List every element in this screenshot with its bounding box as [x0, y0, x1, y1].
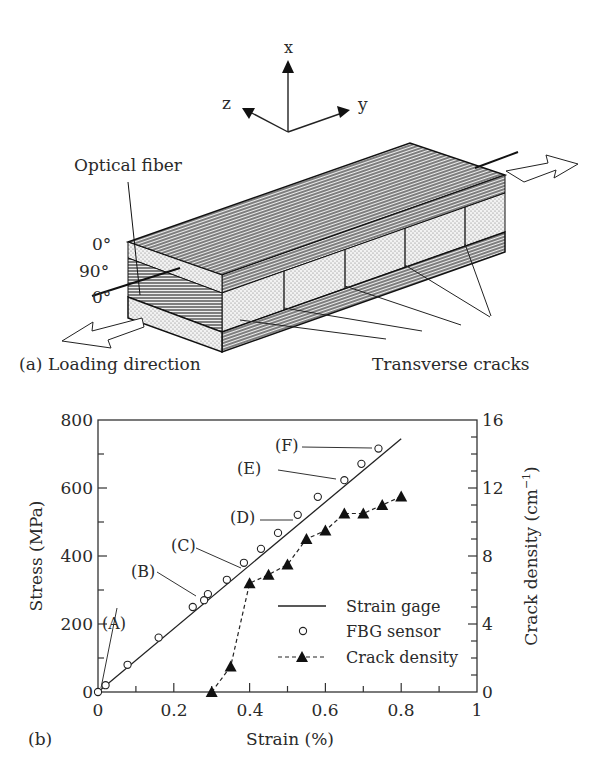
legend: Strain gage FBG sensor Crack density	[278, 597, 458, 667]
crack-density-data-point	[376, 499, 388, 510]
fbg-data-point	[257, 545, 264, 552]
x-tick-label: 0.8	[387, 700, 414, 720]
fbg-data-point	[189, 603, 196, 610]
crack-density-data-point	[263, 569, 275, 580]
y-right-tick-label: 12	[482, 478, 504, 498]
annotation-labels: (A) (B) (C) (D) (E) (F)	[102, 436, 299, 633]
ply-label-bottom: 0°	[92, 287, 111, 307]
y-right-axis-title: Crack density (cm−1)	[520, 466, 541, 646]
annotation-d: (D)	[230, 508, 255, 527]
x-tick-label: 0.6	[311, 700, 338, 720]
y-right-tick-label: 0	[482, 682, 493, 702]
x-axis-ticks	[136, 683, 439, 692]
y-right-tick-label: 8	[482, 546, 493, 566]
annotation-c: (C)	[171, 536, 196, 555]
x-axis-label: x	[284, 38, 293, 57]
panel-b: 0 0.2 0.4 0.6 0.8 1 0 200 400 600 800 0 …	[26, 410, 541, 749]
y-right-tick-labels: 0 4 8 12 16	[482, 410, 504, 702]
fbg-data-point	[341, 477, 348, 484]
crack-density-data-point	[282, 559, 294, 570]
y-left-tick-label: 0	[82, 682, 93, 702]
fbg-data-point	[358, 460, 365, 467]
optical-fiber-exit	[475, 152, 518, 168]
loading-arrow-left-icon	[62, 318, 144, 348]
ply-label-top: 0°	[92, 234, 111, 254]
transverse-cracks-label: Transverse cracks	[372, 354, 530, 374]
x-axis-arrow-icon	[282, 60, 294, 73]
x-axis-title: Strain (%)	[246, 729, 334, 749]
annotation-f: (F)	[275, 436, 299, 455]
x-tick-labels: 0 0.2 0.4 0.6 0.8 1	[93, 700, 483, 720]
fbg-data-point	[223, 576, 230, 583]
figure: x z y	[0, 0, 608, 771]
x-tick-label: 1	[472, 700, 483, 720]
z-axis-label: z	[222, 93, 231, 113]
y-right-tick-label: 4	[482, 614, 493, 634]
crack-density-data-point	[244, 577, 256, 588]
annotation-b: (B)	[131, 562, 155, 581]
y-left-axis-title: Stress (MPa)	[26, 501, 46, 612]
y-left-tick-label: 800	[61, 410, 93, 430]
ply-label-middle: 90°	[79, 261, 109, 281]
crack-density-data-point	[300, 533, 312, 544]
annotation-a: (A)	[102, 614, 126, 633]
y-left-tick-label: 600	[61, 478, 93, 498]
y-left-tick-label: 200	[61, 614, 93, 634]
x-tick-label: 0	[93, 700, 104, 720]
fbg-data-point	[375, 445, 382, 452]
panel-a-label: (a)	[19, 354, 42, 374]
legend-fbg-label: FBG sensor	[346, 622, 441, 641]
fbg-data-point	[314, 493, 321, 500]
legend-crack-density-label: Crack density	[346, 648, 458, 667]
loading-arrow-right-icon	[506, 155, 578, 182]
fbg-data-point	[94, 688, 101, 695]
legend-fbg-marker-icon	[299, 627, 306, 634]
crack-density-data-point	[395, 491, 407, 502]
y-axis-arrow-icon	[337, 106, 350, 118]
fbg-data-point	[124, 661, 131, 668]
optical-fiber-label: Optical fiber	[74, 155, 183, 175]
y-right-axis-ticks	[468, 437, 477, 675]
fbg-data-point	[240, 559, 247, 566]
y-left-tick-labels: 0 200 400 600 800	[61, 410, 93, 702]
fbg-data-point	[204, 590, 211, 597]
fbg-data-point	[294, 511, 301, 518]
loading-direction-label: Loading direction	[48, 354, 201, 374]
legend-strain-gage-label: Strain gage	[346, 597, 441, 616]
y-left-tick-label: 400	[61, 546, 93, 566]
panel-a: x z y	[19, 38, 578, 374]
x-tick-label: 0.2	[160, 700, 187, 720]
annotation-e: (E)	[237, 459, 261, 478]
crack-density-data-point	[225, 661, 237, 672]
fbg-data-point	[102, 682, 109, 689]
fbg-data-point	[274, 529, 281, 536]
y-right-tick-label: 16	[482, 410, 504, 430]
y-axis-label: y	[357, 94, 368, 114]
x-tick-label: 0.4	[236, 700, 263, 720]
panel-b-label: (b)	[28, 729, 52, 749]
coordinate-axes	[248, 68, 345, 132]
fbg-data-point	[155, 634, 162, 641]
